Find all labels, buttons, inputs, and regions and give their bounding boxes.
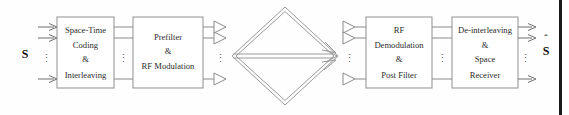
channel-diamond-inner (236, 12, 334, 101)
output-group: ⋮ ˆ S (518, 24, 550, 83)
transmit-antenna (203, 32, 226, 44)
connector-vertical-dots: ⋮ (437, 52, 448, 64)
output-signal-symbol: S (543, 44, 550, 58)
transmit-antenna (203, 21, 226, 33)
input-arrow (38, 35, 57, 42)
input-vertical-dots: ⋮ (41, 52, 52, 64)
output-signal-hat: ˆ (544, 33, 548, 44)
diagram-canvas: S ⋮ Space-Time Coding & Interleaving (0, 0, 569, 115)
block-label-line: & (482, 40, 489, 50)
channel-direct-path (233, 50, 337, 62)
block-label-line: Demodulation (374, 40, 424, 50)
input-group: S ⋮ (22, 24, 57, 83)
receive-antenna (343, 21, 366, 33)
block-label-line: RF Modulation (142, 61, 195, 71)
transmit-antenna (203, 73, 226, 85)
output-vertical-dots: ⋮ (520, 52, 531, 64)
input-arrow (38, 76, 57, 83)
input-signal-symbol: S (22, 47, 29, 61)
block-label-line: Space (475, 54, 496, 64)
channel-diamond-outer (232, 7, 338, 105)
block-label-line: Receiver (470, 70, 501, 80)
block-label-line: Interleaving (65, 70, 107, 80)
block-label-line: De-interleaving (458, 25, 513, 35)
connector-stage3-to-stage4: ⋮ (432, 27, 452, 79)
block-diagram-figure: S ⋮ Space-Time Coding & Interleaving (0, 0, 569, 115)
connector-stage1-to-stage2: ⋮ (114, 27, 133, 79)
output-arrow (518, 24, 536, 31)
block-label-line: RF (394, 25, 405, 35)
connector-vertical-dots: ⋮ (118, 52, 129, 64)
block-space-time-coding-interleaving: Space-Time Coding & Interleaving (57, 17, 114, 88)
transmit-antenna-dots: ⋮ (215, 52, 226, 64)
block-label-line: Coding (73, 40, 99, 50)
receive-antenna-array: ⋮ (343, 21, 366, 85)
output-arrow (518, 35, 536, 42)
block-label-line: & (396, 54, 403, 64)
block-prefilter-rf-modulation: Prefilter & RF Modulation (133, 17, 203, 88)
block-rf-demodulation-post-filter: RF Demodulation & Post Filter (366, 17, 432, 88)
block-label-line: Space-Time (65, 25, 106, 35)
block-label-line: Post Filter (381, 70, 417, 80)
block-label-line: & (82, 54, 89, 64)
block-de-interleaving-space-receiver: De-interleaving & Space Receiver (452, 17, 518, 88)
receive-antenna (343, 32, 366, 44)
page-edge-bar (559, 0, 562, 115)
output-arrow (518, 76, 536, 83)
input-arrow (38, 24, 57, 31)
block-label-line: & (165, 46, 172, 56)
receive-antenna (343, 73, 366, 85)
wireless-multipath-channel (232, 7, 338, 105)
receive-antenna-dots: ⋮ (344, 52, 355, 64)
block-label-line: Prefilter (154, 32, 182, 42)
transmit-antenna-array: ⋮ (203, 21, 226, 85)
